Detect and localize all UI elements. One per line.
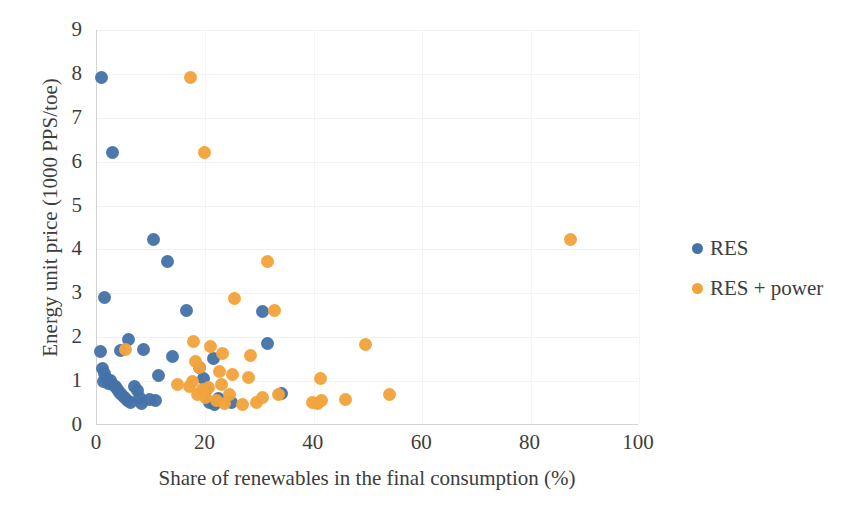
- scatter-chart: 0123456789 020406080100 Share of renewab…: [0, 0, 860, 508]
- data-point: [314, 372, 327, 385]
- data-point: [137, 343, 150, 356]
- gridline-horizontal: [97, 249, 638, 250]
- x-tick-label: 60: [396, 432, 446, 453]
- data-point: [166, 350, 179, 363]
- legend-item-respower[interactable]: RES + power: [692, 268, 823, 308]
- data-point: [147, 233, 160, 246]
- data-point: [213, 365, 226, 378]
- data-point: [564, 233, 577, 246]
- data-point: [256, 305, 269, 318]
- data-point: [94, 345, 107, 358]
- gridline-horizontal: [97, 30, 638, 31]
- data-point: [261, 255, 274, 268]
- plot-area: [96, 30, 638, 425]
- gridline-vertical: [531, 30, 532, 424]
- data-point: [268, 304, 281, 317]
- data-point: [161, 255, 174, 268]
- gridline-horizontal: [97, 118, 638, 119]
- data-point: [95, 71, 108, 84]
- data-point: [228, 292, 241, 305]
- data-point: [184, 71, 197, 84]
- data-point: [216, 347, 229, 360]
- data-point: [106, 146, 119, 159]
- legend-marker-icon: [692, 283, 703, 294]
- data-point: [119, 343, 132, 356]
- data-point: [383, 388, 396, 401]
- data-point: [236, 398, 249, 411]
- legend-label: RES: [710, 236, 749, 261]
- data-point: [226, 368, 239, 381]
- data-point: [315, 394, 328, 407]
- legend-item-res[interactable]: RES: [692, 228, 823, 268]
- data-point: [187, 335, 200, 348]
- gridline-vertical: [314, 30, 315, 424]
- data-point: [272, 388, 285, 401]
- data-point: [256, 391, 269, 404]
- data-point: [98, 291, 111, 304]
- x-tick-label: 40: [288, 432, 338, 453]
- x-axis-title: Share of renewables in the final consump…: [96, 466, 638, 491]
- legend: RESRES + power: [692, 228, 823, 308]
- gridline-horizontal: [97, 74, 638, 75]
- gridline-vertical: [639, 30, 640, 424]
- gridline-vertical: [422, 30, 423, 424]
- data-point: [339, 393, 352, 406]
- data-point: [149, 394, 162, 407]
- gridline-horizontal: [97, 293, 638, 294]
- data-point: [180, 304, 193, 317]
- data-point: [171, 378, 184, 391]
- x-tick-label: 20: [179, 432, 229, 453]
- gridline-horizontal: [97, 162, 638, 163]
- data-point: [198, 146, 211, 159]
- x-tick-label: 80: [505, 432, 555, 453]
- legend-marker-icon: [692, 243, 703, 254]
- gridline-horizontal: [97, 206, 638, 207]
- y-axis-title: Energy unit price (1000 PPS/toe): [38, 18, 63, 418]
- legend-label: RES + power: [710, 276, 823, 301]
- data-point: [242, 371, 255, 384]
- x-tick-label: 100: [613, 432, 663, 453]
- x-tick-label: 0: [71, 432, 121, 453]
- data-point: [359, 338, 372, 351]
- data-point: [261, 337, 274, 350]
- data-point: [244, 349, 257, 362]
